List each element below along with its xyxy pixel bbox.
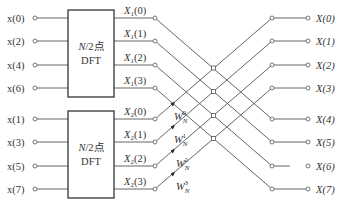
- butterfly-cross-nodes: [212, 66, 216, 141]
- svg-text:WN1: WN1: [174, 132, 188, 148]
- svg-text:X1(3): X1(3): [123, 75, 147, 88]
- fft-butterfly-diagram: x(0) x(2) x(4) x(6) x(1) x(3) x(5) x(7) …: [0, 0, 343, 205]
- x2-labels: X2(0) X2(1) X2(2) X2(3): [123, 106, 147, 189]
- x1-labels: X1(0) X1(1) X1(2) X1(3): [123, 5, 147, 88]
- output-lines: [274, 18, 306, 189]
- output-label: X(2): [315, 60, 335, 72]
- input-label: x(2): [7, 36, 25, 48]
- output-label: X(4): [315, 114, 335, 126]
- input-label: x(6): [7, 83, 25, 95]
- svg-text:DFT: DFT: [81, 55, 101, 66]
- dft-block-top: N/2点 DFT: [68, 10, 114, 97]
- svg-text:X1(1): X1(1): [123, 28, 147, 41]
- input-labels: x(0) x(2) x(4) x(6) x(1) x(3) x(5) x(7): [7, 13, 25, 196]
- input-label: x(4): [7, 60, 25, 72]
- svg-text:X2(3): X2(3): [123, 176, 147, 189]
- input-label: x(7): [7, 184, 25, 196]
- svg-text:X1(0): X1(0): [123, 5, 147, 18]
- svg-text:N/2点: N/2点: [77, 142, 103, 153]
- svg-text:WN0: WN0: [174, 109, 188, 125]
- svg-text:N/2点: N/2点: [77, 41, 103, 52]
- input-lines-bottom: [37, 119, 68, 189]
- output-label: X(3): [315, 83, 335, 95]
- input-label: x(5): [7, 161, 25, 173]
- svg-text:X1(2): X1(2): [123, 52, 147, 65]
- input-lines-top: [37, 18, 68, 88]
- svg-text:X2(1): X2(1): [123, 129, 147, 142]
- stage-nodes-left: [153, 16, 157, 191]
- input-label: x(1): [7, 114, 25, 126]
- output-label: X(7): [315, 184, 335, 196]
- output-label: X(6): [315, 161, 335, 173]
- svg-text:X2(0): X2(0): [123, 106, 147, 119]
- svg-text:DFT: DFT: [81, 156, 101, 167]
- output-nodes: [306, 16, 310, 191]
- svg-text:X2(2): X2(2): [123, 153, 147, 166]
- output-labels: X(0) X(1) X(2) X(3) X(4) X(5) X(6) X(7): [315, 13, 335, 196]
- dft-block-bottom: N/2点 DFT: [68, 111, 114, 198]
- svg-text:WN3: WN3: [176, 179, 190, 195]
- twiddle-labels: WN0 WN1 WN2 WN3: [174, 109, 190, 195]
- output-label: X(1): [315, 36, 335, 48]
- stage-nodes-right: [270, 16, 274, 191]
- output-label: X(5): [315, 137, 335, 149]
- input-label: x(0): [7, 13, 25, 25]
- input-nodes: [33, 16, 37, 191]
- output-label: X(0): [315, 13, 335, 25]
- input-label: x(3): [7, 137, 25, 149]
